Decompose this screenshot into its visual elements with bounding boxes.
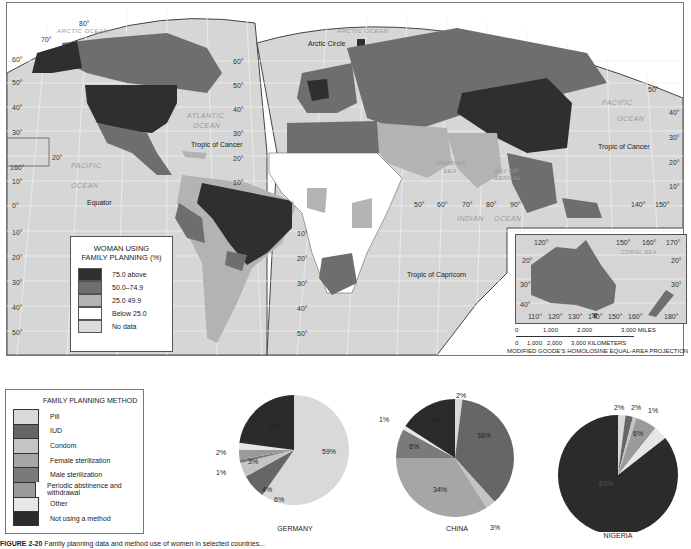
- map-legend-item: 25.0 49.9: [78, 294, 172, 307]
- method-legend-title: FAMILY PLANNING METHOD: [43, 397, 143, 404]
- nigeria-iud-pct: 2%: [631, 404, 641, 411]
- legend-swatch: [13, 453, 39, 468]
- lat-label: 10°: [297, 230, 308, 237]
- legend-label: No data: [112, 323, 137, 330]
- lat-label: 30°: [520, 281, 531, 288]
- legend-label: Pill: [50, 413, 59, 420]
- legend-swatch: [13, 482, 36, 497]
- china-pill-pct: 2%: [456, 392, 466, 399]
- lat-label: 50°: [233, 82, 244, 89]
- legend-swatch: [13, 409, 39, 424]
- arctic-circle-label: Arctic Circle: [308, 40, 345, 47]
- lat-label: 50°: [648, 86, 659, 93]
- map-legend-item: 75.0 above: [78, 268, 172, 281]
- arctic-ocean-label-left: ARCTIC OCEAN: [57, 28, 108, 34]
- legend-swatch: [78, 281, 102, 294]
- china-male-steril-pct: 8%: [409, 443, 419, 450]
- arabian-sea-label: ARABIAN: [436, 160, 466, 166]
- hawaii-lon-label: 160°: [10, 164, 24, 171]
- lat-label: 10°: [669, 183, 680, 190]
- lon-label: 110°: [528, 313, 542, 320]
- atlantic-ocean-label: ATLANTIC: [187, 112, 224, 119]
- lat-label: 40°: [297, 305, 308, 312]
- legend-swatch: [13, 438, 39, 453]
- lat-label: 30°: [12, 279, 23, 286]
- lon-label: 140°: [631, 201, 645, 208]
- lat-label: 50°: [297, 330, 308, 337]
- legend-label: Not using a method: [50, 515, 111, 522]
- method-legend-item: Male sterilization: [6, 467, 143, 482]
- nigeria-other-pct: 4%: [658, 442, 668, 449]
- lon-label: 170°: [666, 239, 680, 246]
- scale-label: 0: [515, 340, 518, 346]
- legend-swatch: [78, 268, 102, 281]
- lat-label: 40°: [233, 106, 244, 113]
- map-legend-item: 50.0–74.9: [78, 281, 172, 294]
- lon-label: 120°: [548, 313, 562, 320]
- method-legend-item: IUD: [6, 424, 143, 439]
- germany-male-steril-pct: 1%: [216, 469, 226, 476]
- germany-condom-pct: 4%: [262, 486, 272, 493]
- tropic-of-cancer-left: Tropic of Cancer: [191, 141, 242, 148]
- scale-label: 2,000: [577, 327, 592, 333]
- map-legend: WOMAN USING FAMILY PLANNING (%) 75.0 abo…: [70, 236, 173, 352]
- lat-label: 50°: [12, 79, 23, 86]
- lon-label: 60°: [437, 201, 448, 208]
- nigeria-not-using-pct: 83%: [599, 480, 613, 487]
- arctic-ocean-label-right: ARCTIC OCEAN: [337, 28, 388, 34]
- lat-label: 20°: [52, 154, 63, 161]
- legend-swatch: [13, 467, 39, 482]
- method-legend-item: Periodic abstinence and withdrawal: [6, 482, 143, 497]
- china-label: CHINA: [407, 525, 507, 532]
- germany-pill-pct: 59%: [322, 448, 336, 455]
- lat-label: 30°: [669, 134, 680, 141]
- lat-label: 30°: [297, 280, 308, 287]
- germany-iud-pct: 6%: [274, 496, 284, 503]
- legend-label: Periodic abstinence and withdrawal: [47, 482, 143, 496]
- legend-swatch: [78, 307, 102, 320]
- method-legend-item: Other: [6, 497, 143, 512]
- bay-of-bengal-label: BAY OF: [494, 168, 518, 174]
- legend-swatch: [78, 320, 102, 333]
- germany-periodic-pct: 3%: [248, 458, 258, 465]
- pacific-ocean-label-right-2: OCEAN: [617, 115, 644, 122]
- projection-label: MODIFIED GOODE'S HOMOLOSINE EQUAL-AREA P…: [507, 348, 688, 354]
- method-legend-item: Condom: [6, 438, 143, 453]
- figure-number: FIGURE 2-20: [0, 540, 42, 547]
- lat-label: 20°: [522, 257, 533, 264]
- legend-swatch: [13, 497, 39, 512]
- scale-label: 2,000: [547, 340, 562, 346]
- lat-label: 30°: [233, 130, 244, 137]
- equator-label: Equator: [87, 199, 112, 206]
- lon-label: 160°: [628, 313, 642, 320]
- legend-swatch: [13, 511, 39, 526]
- lon-label: 150°: [616, 239, 630, 246]
- scale-label: 3,000 MILES: [621, 327, 656, 333]
- tropic-of-cancer-right: Tropic of Cancer: [598, 143, 649, 150]
- legend-label: Female sterilization: [50, 457, 110, 464]
- lat-label: 50°: [12, 329, 23, 336]
- australia-graphic: [516, 235, 686, 323]
- method-legend-item: Female sterilization: [6, 453, 143, 468]
- nigeria-label: NIGERIA: [568, 532, 668, 539]
- lon-label: 130°: [568, 313, 582, 320]
- lon-label: 180°: [664, 313, 678, 320]
- lat-label: 60°: [233, 58, 244, 65]
- lon-label: 90°: [510, 201, 521, 208]
- lat-label: 40°: [12, 304, 23, 311]
- scale-label: 1,000: [527, 340, 542, 346]
- lat-label: 30°: [671, 281, 682, 288]
- lat-label: 10°: [233, 179, 244, 186]
- lon-label: 140°: [588, 313, 602, 320]
- lat-label: 20°: [669, 159, 680, 166]
- map-legend-item: No data: [78, 320, 172, 333]
- lat-label: 40°: [12, 104, 23, 111]
- scale-line: [516, 336, 634, 337]
- lat-label: 20°: [233, 155, 244, 162]
- method-legend-item: Not using a method: [6, 511, 143, 526]
- method-legend: FAMILY PLANNING METHOD Pill IUD Condom F…: [5, 389, 144, 534]
- germany-not-using-pct: 25%: [267, 423, 281, 430]
- australia-inset: CORAL SEA 120° 150° 160° 170° 20° 30° 40…: [515, 234, 687, 324]
- lat-label: 60°: [12, 56, 23, 63]
- atlantic-ocean-label-2: OCEAN: [193, 122, 220, 129]
